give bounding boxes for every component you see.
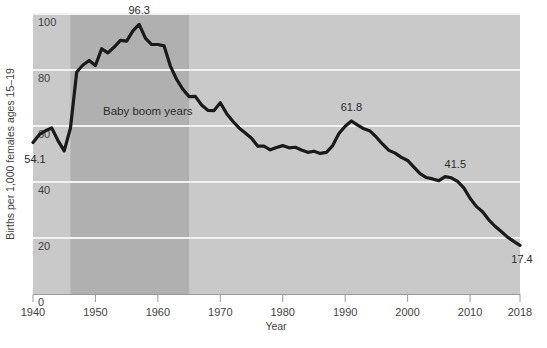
x-tick-label: 2010 (458, 306, 482, 318)
data-point-label: 96.3 (128, 4, 149, 16)
x-tick-label: 1980 (271, 306, 295, 318)
teen-birth-rate-chart: 020406080100 194019501960197019801990200… (0, 0, 547, 348)
chart-canvas: 020406080100 194019501960197019801990200… (0, 0, 547, 348)
y-tick-label: 40 (38, 184, 50, 196)
data-point-label: 41.5 (445, 158, 466, 170)
data-point-label: 61.8 (341, 101, 362, 113)
x-tick-label: 1970 (208, 306, 232, 318)
baby-boom-shaded-band (70, 14, 189, 294)
x-tick-label: 1940 (21, 306, 45, 318)
data-point-label: 17.4 (511, 253, 532, 265)
x-tick-label: 1990 (333, 306, 357, 318)
x-tick-label: 2018 (508, 306, 532, 318)
x-tick-label: 2000 (395, 306, 419, 318)
x-axis-title: Year (265, 320, 287, 332)
y-axis-title: Births per 1,000 females ages 15–19 (4, 68, 16, 240)
y-tick-label: 80 (38, 72, 50, 84)
y-tick-label: 100 (38, 16, 56, 28)
baby-boom-label: Baby boom years (103, 105, 193, 117)
x-tick-label: 1950 (83, 306, 107, 318)
y-tick-label: 20 (38, 240, 50, 252)
x-tick-label: 1960 (146, 306, 170, 318)
data-point-label: 54.1 (24, 153, 45, 165)
